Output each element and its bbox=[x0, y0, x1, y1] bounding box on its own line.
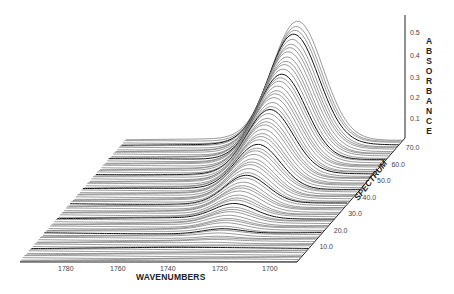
y-tick-label: 10.0 bbox=[319, 243, 333, 250]
y-tick-label: 50.0 bbox=[377, 177, 391, 184]
x-axis-title: WAVENUMBERS bbox=[136, 272, 206, 282]
z-axis-title: ABSORBANCE bbox=[424, 36, 434, 136]
z-tick-label: 0.4 bbox=[410, 52, 420, 59]
waterfall-chart bbox=[0, 0, 454, 294]
x-tick-label: 1760 bbox=[110, 265, 126, 272]
x-tick-label: 1720 bbox=[212, 265, 228, 272]
y-tick-label: 60.0 bbox=[391, 161, 405, 168]
x-tick-label: 1740 bbox=[160, 265, 176, 272]
z-tick-label: 0.1 bbox=[410, 115, 420, 122]
x-tick-label: 1780 bbox=[58, 265, 74, 272]
y-tick-label: 30.0 bbox=[348, 210, 362, 217]
z-tick-label: 0.2 bbox=[410, 94, 420, 101]
y-tick-label: 40.0 bbox=[363, 194, 377, 201]
z-tick-label: 0.5 bbox=[410, 29, 420, 36]
x-tick-label: 1700 bbox=[262, 265, 278, 272]
z-tick-label: 0.3 bbox=[410, 74, 420, 81]
y-tick-label: 70.0 bbox=[406, 144, 420, 151]
y-tick-label: 20.0 bbox=[334, 227, 348, 234]
